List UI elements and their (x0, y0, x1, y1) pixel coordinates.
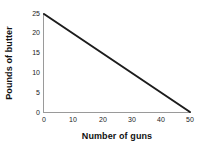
x-tick-label: 10 (61, 116, 85, 123)
chart-container: Pounds of butter 25 20 15 10 5 0 0 10 20… (0, 0, 206, 151)
x-axis-title: Number of guns (43, 131, 191, 141)
x-tick-label: 20 (91, 116, 115, 123)
x-tick-label: 40 (149, 116, 173, 123)
x-tick-label: 50 (178, 116, 202, 123)
x-tick-label: 30 (120, 116, 144, 123)
x-axis-tick-labels: 0 10 20 30 40 50 (0, 0, 206, 151)
x-tick-label: 0 (32, 116, 56, 123)
